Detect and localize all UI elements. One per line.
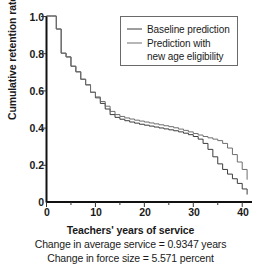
x-tick-label-0: 0 — [32, 206, 62, 218]
x-tick-label-10: 10 — [81, 206, 111, 218]
x-tick-label-30: 30 — [179, 206, 209, 218]
y-axis-ticks — [41, 17, 46, 166]
legend-label-new-age-eligibility-line2: new age eligibility — [147, 51, 223, 62]
x-axis-title: Teachers' years of service — [0, 224, 261, 236]
x-tick-label-20: 20 — [130, 206, 160, 218]
caption-line-1: Change in average service = 0.9347 years — [0, 238, 261, 250]
x-tick-label-40: 40 — [228, 206, 258, 218]
retention-rate-chart: Cumulative retention rate 1.0 0.8 0.6 0.… — [0, 0, 261, 267]
caption-line-2: Change in force size = 5.571 percent — [0, 252, 261, 264]
legend-label-baseline-prediction: Baseline prediction — [147, 24, 230, 35]
legend-label-new-age-eligibility: Prediction with — [147, 38, 211, 49]
